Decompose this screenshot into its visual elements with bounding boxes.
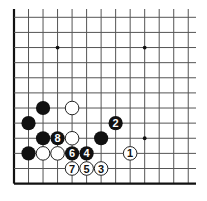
go-board-diagram: 28641753	[0, 0, 207, 201]
move-number-label: 2	[113, 117, 119, 129]
white-stone	[51, 147, 65, 161]
star-point	[56, 46, 60, 50]
move-number-label: 8	[54, 132, 60, 144]
move-number-label: 3	[98, 163, 104, 175]
move-number-label: 1	[127, 147, 133, 159]
star-point	[143, 46, 147, 50]
white-stone: 5	[80, 162, 94, 176]
black-stone	[21, 146, 35, 160]
black-stone: 8	[50, 131, 64, 145]
move-number-label: 7	[69, 163, 75, 175]
white-stone-disc	[65, 101, 79, 115]
black-stone: 2	[109, 116, 123, 130]
black-stone: 4	[80, 146, 94, 160]
black-stone: 6	[65, 146, 79, 160]
move-number-label: 6	[69, 147, 75, 159]
white-stone	[65, 131, 79, 145]
white-stone-disc	[51, 147, 65, 161]
black-stone	[36, 131, 50, 145]
white-stone-disc	[65, 131, 79, 145]
black-stone-disc	[94, 131, 108, 145]
black-stone-disc	[36, 101, 50, 115]
star-point	[143, 136, 147, 140]
white-stone: 1	[123, 147, 137, 161]
white-stone: 7	[65, 162, 79, 176]
white-stone	[36, 147, 50, 161]
white-stone	[65, 101, 79, 115]
move-number-label: 4	[84, 147, 91, 159]
black-stone-disc	[36, 131, 50, 145]
white-stone: 3	[94, 162, 108, 176]
go-board: 28641753	[0, 0, 207, 201]
black-stone	[94, 131, 108, 145]
black-stone-disc	[21, 146, 35, 160]
white-stone-disc	[36, 147, 50, 161]
black-stone	[36, 101, 50, 115]
black-stone-disc	[21, 116, 35, 130]
move-number-label: 5	[84, 163, 90, 175]
black-stone	[21, 116, 35, 130]
